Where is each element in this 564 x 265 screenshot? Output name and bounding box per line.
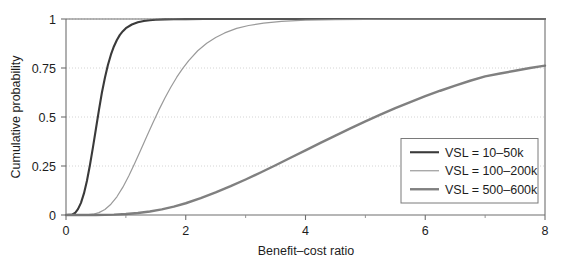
y-tick-label-0: 0 [49,209,56,223]
x-tick-label-0: 0 [63,224,70,238]
y-tick-label-1: 0.25 [32,160,56,174]
y-tick-label-4: 1 [49,13,56,27]
x-axis-title: Benefit–cost ratio [258,244,355,258]
y-tick-label-3: 0.75 [32,62,56,76]
chart-background [0,0,564,265]
cumulative-probability-chart: 02468 00.250.50.751 Benefit–cost ratio C… [0,0,564,265]
x-tick-label-3: 6 [422,224,429,238]
x-tick-label-2: 4 [302,224,309,238]
y-tick-label-2: 0.5 [39,111,56,125]
legend-label-2: VSL = 500–600k [445,183,538,197]
chart-legend[interactable]: VSL = 10–50kVSL = 100–200kVSL = 500–600k [401,139,538,204]
figure-container: 02468 00.250.50.751 Benefit–cost ratio C… [0,0,564,265]
x-tick-label-1: 2 [182,224,189,238]
legend-label-0: VSL = 10–50k [445,146,524,160]
legend-label-1: VSL = 100–200k [445,164,538,178]
y-axis-title: Cumulative probability [9,55,23,179]
x-tick-label-4: 8 [542,224,549,238]
